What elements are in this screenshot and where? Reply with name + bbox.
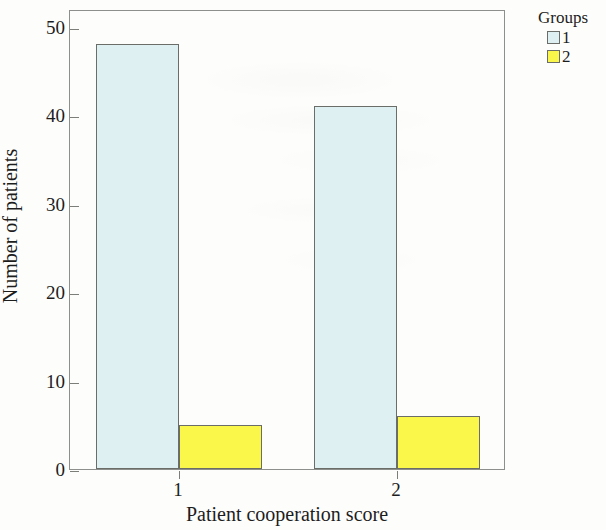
x-tick-2	[397, 471, 398, 479]
y-tick-label-30: 30	[46, 195, 65, 214]
x-tick-label-2: 2	[366, 479, 426, 500]
y-axis-title: Number of patients	[0, 26, 21, 426]
bar-group-2-category-2	[397, 416, 480, 469]
legend-item-1: 1	[538, 29, 604, 46]
legend-item-2: 2	[538, 48, 604, 65]
bar-chart-figure: 01020304050 12 Number of patients Patien…	[0, 0, 606, 530]
bar-group-2-category-1	[179, 425, 262, 469]
bar-group-1-category-1	[96, 44, 179, 469]
legend-label-2: 2	[562, 48, 571, 65]
y-tick-label-40: 40	[46, 106, 65, 125]
legend-entries: 12	[538, 29, 604, 65]
y-tick-40	[70, 117, 79, 118]
bar-group-1-category-2	[314, 106, 397, 469]
y-tick-0	[70, 471, 79, 472]
y-tick-10	[70, 383, 79, 384]
y-tick-20	[70, 294, 79, 295]
plot-area	[69, 10, 505, 470]
y-tick-30	[70, 206, 79, 207]
legend-swatch-2	[547, 50, 560, 63]
legend: Groups 12	[538, 8, 604, 65]
y-tick-label-50: 50	[46, 18, 65, 37]
y-tick-label-0: 0	[56, 460, 66, 479]
legend-label-1: 1	[562, 29, 571, 46]
y-tick-label-20: 20	[46, 283, 65, 302]
x-tick-1	[179, 471, 180, 479]
x-axis-title: Patient cooperation score	[69, 503, 505, 525]
y-tick-50	[70, 29, 79, 30]
legend-swatch-1	[547, 31, 560, 44]
legend-title: Groups	[538, 8, 604, 27]
x-tick-label-1: 1	[148, 479, 208, 500]
y-tick-label-10: 10	[46, 372, 65, 391]
